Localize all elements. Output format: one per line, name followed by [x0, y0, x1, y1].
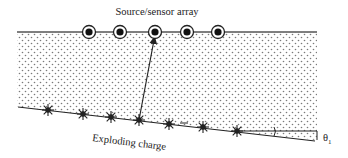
explosion-icon [77, 108, 89, 120]
explosion-icon [231, 125, 243, 137]
sensor-icon [212, 26, 225, 39]
explosion-icon [197, 121, 209, 133]
explosion-icon [133, 114, 145, 126]
source-sensor-array-label: Source/sensor array [115, 6, 199, 17]
sensor-icon [149, 26, 162, 39]
angle-subscript: 1 [328, 138, 332, 146]
sensor-icon [114, 26, 127, 39]
explosion-icon [163, 118, 175, 130]
explosion-icon [105, 111, 117, 123]
exploding-charge-label: Exploding charge [92, 132, 167, 152]
seismic-reflection-diagram: Source/sensor array Exploding charge θ1 [0, 0, 348, 158]
sensor-icon [83, 26, 96, 39]
angle-theta-label: θ1 [323, 132, 332, 146]
explosion-icon [42, 104, 54, 116]
sensor-icon [181, 26, 194, 39]
